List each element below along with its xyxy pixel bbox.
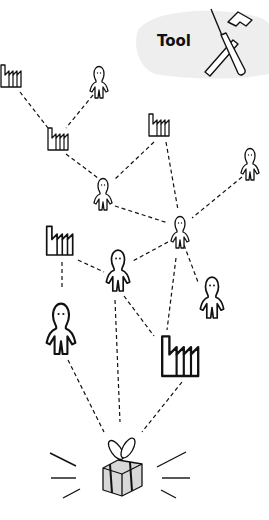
person-icon xyxy=(47,304,76,354)
factory-icon xyxy=(149,114,169,136)
person-icon xyxy=(106,250,129,291)
gift-icon xyxy=(103,436,142,496)
factory-icon xyxy=(1,65,21,87)
factory-icon xyxy=(47,226,73,255)
person-icon xyxy=(94,179,112,211)
factory-icon xyxy=(48,128,68,150)
person-icon xyxy=(171,217,189,249)
person-icon xyxy=(241,149,259,181)
tool-banner: Tool xyxy=(136,9,269,79)
tool-label: Tool xyxy=(157,32,191,50)
factory-icon xyxy=(162,336,198,376)
person-icon xyxy=(90,67,108,99)
person-icon xyxy=(200,277,223,318)
network-diagram: Tool xyxy=(0,0,269,520)
